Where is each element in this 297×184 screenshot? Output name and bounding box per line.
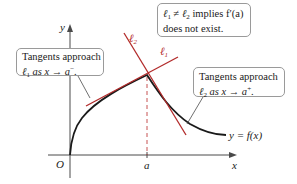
- right-callout-line2: ℓ2 as x → a+.: [199, 83, 279, 101]
- a-label: a: [144, 160, 150, 171]
- left-callout-line1: Tangents approach: [22, 51, 98, 63]
- top-right-callout: ℓ1 ≠ ℓ2 implies f′(a) does not exist.: [157, 3, 251, 37]
- y-axis-label: y: [60, 22, 65, 33]
- right-callout-pointer: [187, 97, 203, 124]
- left-callout-line2: ℓ1 as x → a−.: [22, 63, 98, 81]
- right-callout: Tangents approach ℓ2 as x → a+.: [193, 67, 285, 97]
- l2-label: ℓ2: [129, 33, 137, 46]
- top-right-callout-line1: ℓ1 ≠ ℓ2 implies f′(a): [163, 8, 245, 23]
- origin-label: O: [56, 159, 64, 170]
- curve-label: y = f(x): [229, 130, 262, 141]
- right-callout-line1: Tangents approach: [199, 71, 279, 83]
- tangent-line-l2: [124, 33, 186, 135]
- y-axis-arrow-icon: [67, 24, 73, 32]
- x-axis-label: x: [232, 160, 237, 171]
- x-axis-arrow-icon: [229, 152, 237, 158]
- left-callout: Tangents approach ℓ1 as x → a−.: [16, 48, 104, 76]
- top-right-callout-line2: does not exist.: [163, 23, 245, 35]
- l1-label: ℓ1: [160, 46, 168, 59]
